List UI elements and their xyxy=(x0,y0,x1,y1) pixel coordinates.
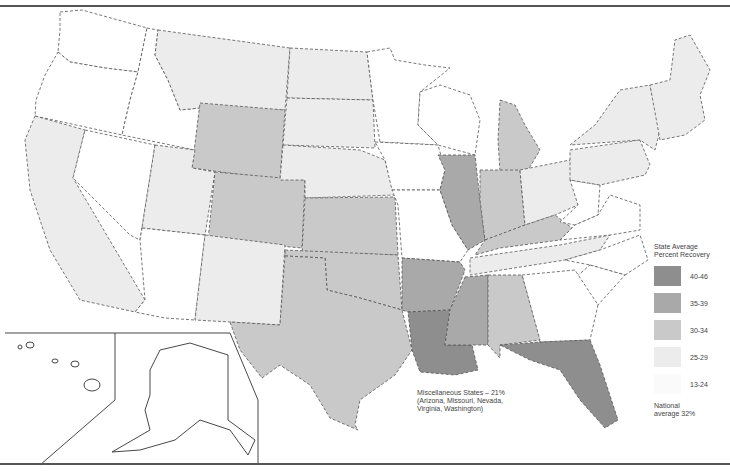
legend-range: 13-24 xyxy=(690,381,708,388)
legend-title-line: Percent Recovery xyxy=(654,251,730,259)
legend-item: 25-29 xyxy=(654,347,730,367)
legend-item: 40-46 xyxy=(654,266,730,286)
inset-frame-hawaii xyxy=(5,333,115,465)
state-south-dakota xyxy=(283,98,375,148)
legend-item: 35-39 xyxy=(654,293,730,313)
state-hawaii xyxy=(84,379,100,391)
hawaii-island xyxy=(52,359,58,363)
hawaii-island xyxy=(18,345,22,349)
state-north-dakota xyxy=(287,48,373,100)
region-new-england xyxy=(650,35,710,140)
state-new-mexico xyxy=(195,235,285,325)
legend-swatch xyxy=(654,293,681,313)
state-florida xyxy=(500,340,618,428)
legend-item: 13-24 xyxy=(654,374,730,394)
note-line: (Arizona, Missouri, Nevada, xyxy=(417,397,547,405)
legend-title: State Average Percent Recovery xyxy=(654,243,730,259)
state-colorado xyxy=(208,172,305,248)
national-average: National average 32% xyxy=(654,402,730,418)
legend-item: 30-34 xyxy=(654,320,730,340)
national-average-line: average 32% xyxy=(654,410,730,418)
legend: State Average Percent Recovery 40-46 35-… xyxy=(654,243,730,418)
us-choropleth-map xyxy=(0,0,730,471)
state-new-york xyxy=(570,85,660,150)
state-kansas xyxy=(302,197,398,255)
inset-frame-alaska xyxy=(115,333,258,465)
legend-range: 30-34 xyxy=(690,327,708,334)
hawaii-island xyxy=(71,361,79,367)
state-pennsylvania xyxy=(570,140,650,185)
state-wyoming xyxy=(192,103,285,180)
legend-range: 40-46 xyxy=(690,273,708,280)
legend-swatch xyxy=(654,347,681,367)
miscellaneous-states-note: Miscellaneous States – 21% (Arizona, Mis… xyxy=(417,389,547,413)
note-line: Virginia, Washington) xyxy=(417,405,547,413)
legend-range: 35-39 xyxy=(690,300,708,307)
note-line: Miscellaneous States – 21% xyxy=(417,389,547,397)
legend-swatch xyxy=(654,320,681,340)
legend-range: 25-29 xyxy=(690,354,708,361)
national-average-line: National xyxy=(654,402,730,410)
legend-swatch xyxy=(654,374,681,394)
state-alaska xyxy=(112,343,255,455)
state-michigan xyxy=(498,100,540,172)
hawaii-island xyxy=(26,342,34,348)
legend-title-line: State Average xyxy=(654,243,730,251)
state-montana xyxy=(155,30,290,110)
legend-swatch xyxy=(654,266,681,286)
bottom-rule xyxy=(0,463,730,465)
state-arizona xyxy=(135,228,205,320)
